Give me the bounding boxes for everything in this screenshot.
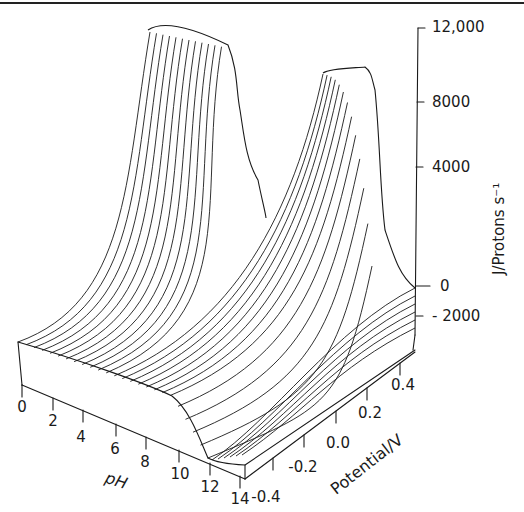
ph-tick-label: 0	[17, 400, 27, 415]
z-tick-label: 0	[440, 279, 450, 294]
surface-trace	[122, 75, 327, 379]
z-tick-label: - 2000	[432, 309, 480, 324]
surface-trace	[162, 103, 347, 393]
ph-tick-label: 14	[230, 492, 249, 507]
surface-trace	[26, 33, 157, 345]
surface-trace	[138, 80, 335, 384]
potential-tick-label: -0.2	[288, 460, 317, 475]
ph-axis	[22, 385, 245, 479]
potential-tick-label: 0.4	[391, 378, 415, 393]
potential-tick-label: 0.2	[358, 406, 382, 421]
surface-trace	[90, 44, 208, 367]
z-tick-label: 8000	[432, 95, 470, 110]
surface-trace	[66, 40, 189, 359]
surface-trace	[58, 39, 182, 356]
z-axis-title: J/Protons s⁻¹	[492, 183, 507, 275]
surface-trace	[74, 41, 195, 361]
surface-wireframe	[18, 32, 415, 460]
z-axis	[415, 28, 418, 335]
ph-tick-label: 6	[110, 442, 120, 457]
ph-tick-label: 8	[140, 455, 150, 470]
ph-tick-label: 2	[48, 414, 58, 429]
surface-trace	[42, 36, 169, 350]
peak-2-outline	[323, 67, 415, 288]
potential-tick-label: -0.4	[251, 490, 280, 505]
ph-tick-label: 12	[200, 480, 219, 495]
surface-trace	[98, 45, 215, 370]
potential-tick-label: 0.0	[326, 436, 350, 451]
box-edge-left	[18, 342, 22, 385]
surface-trace	[114, 74, 323, 376]
surface-trace	[82, 43, 202, 365]
z-tick-label: 4000	[432, 160, 470, 175]
surface-trace	[154, 92, 343, 390]
ph-tick-label: 4	[76, 430, 86, 445]
surface-trace	[130, 77, 331, 382]
surface-trace	[201, 224, 368, 446]
ph-tick-label: 10	[170, 467, 189, 482]
surface-trace	[186, 159, 360, 419]
surface-trace	[34, 35, 163, 348]
z-tick-label: 12,000	[432, 20, 485, 35]
surface-trace	[18, 32, 150, 342]
surface-trace	[208, 266, 372, 458]
